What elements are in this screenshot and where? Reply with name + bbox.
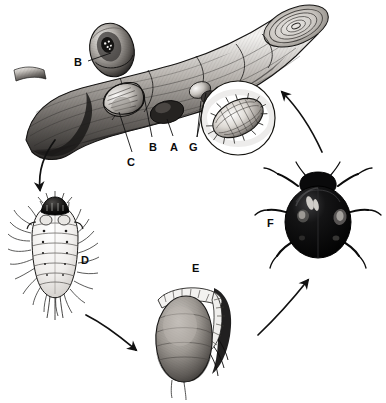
label-c: C — [127, 157, 135, 168]
label-f: F — [267, 218, 274, 229]
scale-insect-upper — [84, 18, 140, 81]
label-a: A — [170, 142, 178, 153]
arrow-adult-to-branch — [282, 92, 322, 152]
adult-beetle-illustration — [255, 162, 381, 268]
arrow-pupa-to-adult — [258, 280, 308, 335]
label-e: E — [192, 263, 199, 274]
life-cycle-figure: B C B A G D E F — [0, 0, 386, 403]
arrow-larva-to-pupa — [86, 315, 136, 350]
label-d: D — [81, 255, 89, 266]
label-g: G — [189, 142, 198, 153]
infested-branch-illustration — [14, 0, 334, 160]
illustration-layer — [0, 0, 386, 403]
pupa-illustration — [156, 288, 231, 400]
label-b-upper: B — [74, 57, 82, 68]
label-b-lower: B — [149, 142, 157, 153]
